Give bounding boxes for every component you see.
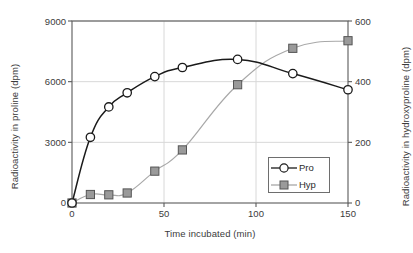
data-point-hyp-45 (151, 167, 159, 175)
data-point-hyp-20 (105, 191, 113, 199)
legend-label-pro: Pro (299, 160, 314, 176)
data-point-pro-150 (344, 86, 352, 94)
data-point-hyp-90 (234, 81, 242, 89)
data-point-pro-120 (289, 69, 297, 77)
data-point-pro-90 (233, 55, 241, 63)
square-marker-icon (269, 177, 299, 193)
legend-label-hyp: Hyp (299, 177, 316, 193)
legend: Pro Hyp (268, 157, 330, 193)
data-point-pro-45 (151, 72, 159, 80)
data-point-pro-60 (178, 63, 186, 71)
data-point-pro-20 (105, 103, 113, 111)
chart-figure: Radioactivity in proline (dpm) Radioacti… (0, 0, 413, 253)
plot-area (0, 0, 413, 253)
data-point-pro-10 (86, 133, 94, 141)
circle-marker-icon (269, 160, 299, 176)
legend-item-pro: Pro (269, 159, 331, 176)
data-point-pro-30 (123, 89, 131, 97)
data-point-hyp-10 (86, 190, 94, 198)
data-point-hyp-120 (289, 44, 297, 52)
legend-item-hyp: Hyp (269, 176, 331, 193)
data-point-pro-0 (68, 199, 76, 207)
data-point-hyp-30 (123, 189, 131, 197)
data-point-hyp-60 (178, 146, 186, 154)
data-point-hyp-150 (344, 37, 352, 45)
